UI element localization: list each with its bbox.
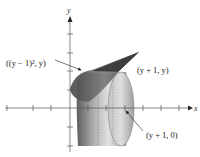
axis-point-label: (y + 1, 0) xyxy=(146,130,178,140)
y-axis-label: y xyxy=(66,6,71,15)
y-axis: y xyxy=(66,6,73,152)
right-line-point-label: (y + 1, y) xyxy=(137,65,169,75)
solid-of-revolution-diagram: x y ((y − 1)², y) (y + 1, y) (y + 1, 0) xyxy=(0,0,200,157)
x-axis-label: x xyxy=(193,104,198,113)
left-curve-point-label: ((y − 1)², y) xyxy=(6,58,46,68)
annotation-right-line-point: (y + 1, y) xyxy=(137,65,169,75)
